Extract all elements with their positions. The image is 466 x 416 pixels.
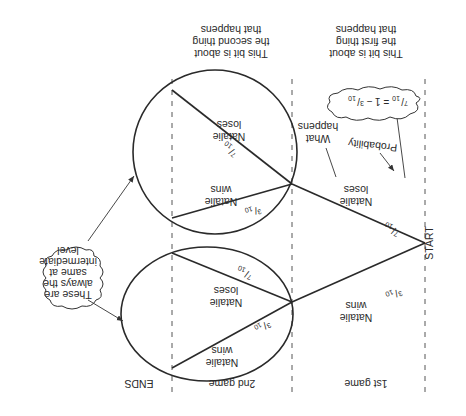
formula-rhs-den: 10 [348, 95, 356, 102]
first-lose-prob: 7 / 10 [382, 221, 401, 238]
prob-denominator: 10 [384, 289, 394, 299]
second-game-label: 2nd game [208, 378, 255, 390]
formula-middle: = 1 − [364, 96, 392, 107]
first-lose-label: Natalie loses [339, 184, 372, 208]
formula-cloud: 7 / 10 = 1 − 3 / 10 [327, 87, 420, 121]
first-win-label: Natalie wins [339, 300, 372, 324]
formula-lhs-den: 10 [392, 95, 400, 102]
lose-win-label: Natalie wins [204, 184, 237, 208]
outcome-text: loses [217, 119, 242, 131]
header-second-thing: This bit is about the second thing that … [192, 24, 269, 60]
header-line: the second thing [192, 36, 269, 48]
pointer-arrow-upper-ellipse [88, 176, 134, 241]
cloud-text-line: same at [49, 267, 86, 279]
formula-slash: / [401, 96, 404, 107]
outcome-text: wins [211, 345, 233, 357]
probability-tree-diagram: This bit is about the first thing that h… [0, 0, 466, 416]
cloud-text-line: intermediate [39, 256, 97, 268]
win-win-prob: 3 / 10 [253, 317, 273, 335]
prob-denominator: 10 [237, 264, 247, 273]
header-line: This bit is about [329, 48, 403, 60]
lose-lose-label: Natalie loses [212, 119, 245, 143]
win-lose-label: Natalie loses [209, 285, 242, 309]
header-line: the first thing [336, 36, 396, 48]
outcome-text: Natalie [204, 196, 237, 208]
cloud-text-line: level [57, 245, 79, 257]
what-happens-annotation: What happens [298, 121, 338, 177]
pointer-arrow-lower-ellipse [88, 300, 123, 321]
formula-slash: / [357, 96, 360, 107]
header-line: This bit is about [194, 48, 268, 60]
first-game-label: 1st game [344, 378, 387, 390]
pointer-line [326, 148, 336, 177]
cloud-text-line: These are [44, 289, 91, 301]
outcome-text: loses [214, 285, 239, 297]
outcome-text: loses [344, 184, 369, 196]
cloud-text-line: always the [43, 278, 93, 290]
outcome-text: Natalie [205, 357, 238, 369]
same-level-cloud: These are always the same at intermediat… [39, 176, 134, 321]
header-line: that happens [201, 24, 262, 36]
branch-first-win [292, 243, 425, 302]
outcome-text: Natalie [339, 312, 372, 324]
tree-diagram-canvas: This bit is about the first thing that h… [0, 0, 466, 416]
outcome-text: Natalie [339, 196, 372, 208]
outcome-text: Natalie [209, 297, 242, 309]
prob-denominator: 10 [384, 221, 394, 231]
first-win-prob: 3 / 10 [384, 285, 403, 302]
pointer-arrow [380, 153, 394, 171]
annotation-text: happens [298, 121, 338, 133]
prob-denominator: 10 [244, 205, 254, 214]
outcome-text: wins [210, 184, 232, 196]
ends-label: ENDS [124, 378, 153, 390]
outcome-text: wins [345, 300, 367, 312]
lose-win-prob: 3 / 10 [244, 203, 263, 219]
annotation-text: What [306, 133, 331, 145]
header-line: that happens [336, 24, 397, 36]
after-lose-ellipse [133, 70, 297, 234]
win-lose-prob: 7 / 10 [235, 264, 254, 281]
annotation-text: Probability [347, 137, 398, 154]
header-first-thing: This bit is about the first thing that h… [329, 24, 403, 60]
win-win-label: Natalie wins [205, 345, 238, 369]
